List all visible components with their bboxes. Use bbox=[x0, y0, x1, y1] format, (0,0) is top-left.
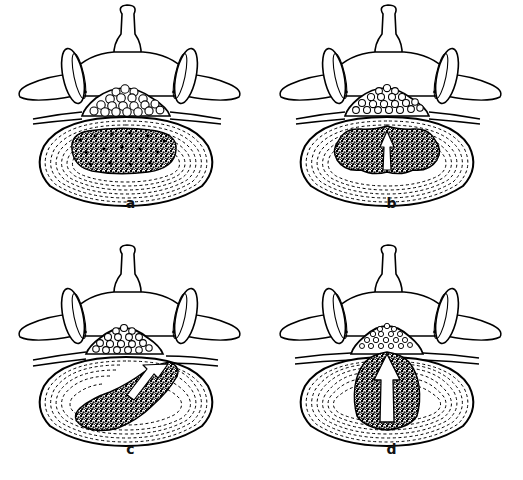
panel-a-illustration bbox=[0, 0, 261, 222]
nerve-root-left bbox=[33, 352, 86, 360]
nerve-root-left bbox=[296, 112, 345, 119]
panel-c-label: c bbox=[0, 442, 261, 456]
panel-a-label: a bbox=[0, 196, 261, 210]
spinous-process bbox=[114, 5, 141, 56]
nerve-root-right bbox=[423, 353, 479, 358]
panel-b-illustration bbox=[261, 0, 522, 222]
nerve-root-right bbox=[429, 112, 480, 119]
panel-b-label: b bbox=[261, 196, 522, 210]
herniation-figure: a bbox=[0, 0, 523, 480]
nerve-root-left bbox=[33, 112, 82, 119]
panel-d-illustration bbox=[261, 240, 522, 462]
spinous-process bbox=[375, 245, 402, 296]
panel-c: c bbox=[0, 240, 261, 480]
panel-b: b bbox=[261, 0, 522, 240]
panel-d-label: d bbox=[261, 442, 522, 456]
spinous-process bbox=[114, 245, 141, 296]
spinous-process bbox=[375, 5, 402, 56]
nerve-root-left bbox=[295, 353, 351, 358]
nucleus-pulposus bbox=[72, 128, 176, 174]
panel-d: d bbox=[261, 240, 522, 480]
panel-a: a bbox=[0, 0, 261, 240]
panel-c-illustration bbox=[0, 240, 261, 462]
nerve-root-right bbox=[170, 112, 221, 119]
nerve-root-right-compressed bbox=[166, 356, 218, 360]
